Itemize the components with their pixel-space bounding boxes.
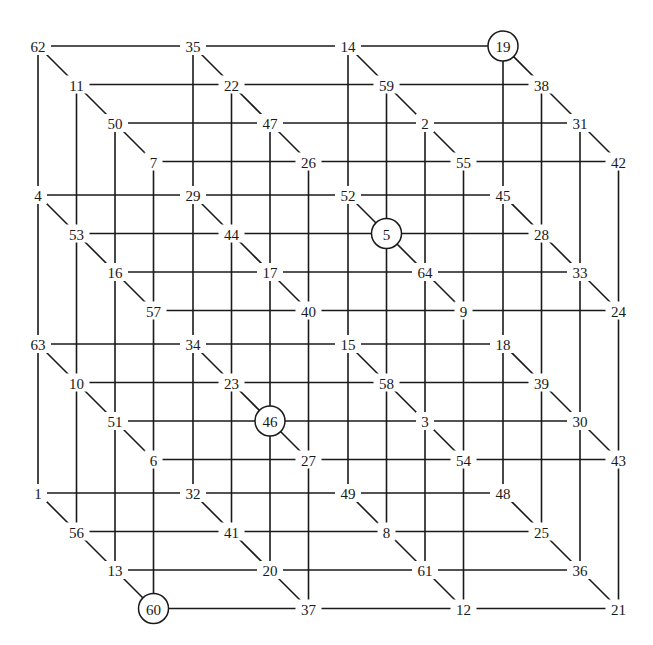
cube-node: 31 bbox=[567, 114, 593, 132]
cube-node: 1 bbox=[29, 484, 47, 502]
node-value: 10 bbox=[69, 376, 84, 392]
circled-cube-node: 5 bbox=[372, 219, 402, 249]
cube-node: 62 bbox=[25, 37, 51, 55]
cube-node: 32 bbox=[180, 484, 206, 502]
node-value: 51 bbox=[108, 414, 123, 430]
node-value: 23 bbox=[224, 376, 239, 392]
node-value: 54 bbox=[456, 453, 472, 469]
cube-node: 44 bbox=[219, 225, 245, 243]
node-value: 63 bbox=[31, 337, 46, 353]
cube-node: 20 bbox=[257, 561, 283, 579]
node-value: 39 bbox=[534, 376, 549, 392]
cube-node: 11 bbox=[64, 76, 90, 94]
magic-cube-diagram: 6235141911225938504723172655424295245534… bbox=[0, 0, 653, 645]
cube-node: 24 bbox=[606, 302, 632, 320]
node-value: 22 bbox=[224, 78, 239, 94]
circled-cube-node: 46 bbox=[255, 406, 285, 436]
cube-node: 55 bbox=[451, 153, 477, 171]
node-value: 37 bbox=[301, 602, 317, 618]
cube-node: 47 bbox=[257, 114, 283, 132]
cube-node: 4 bbox=[29, 186, 47, 204]
node-value: 53 bbox=[69, 227, 84, 243]
circled-cube-node: 19 bbox=[488, 31, 518, 61]
node-value: 8 bbox=[383, 525, 391, 541]
cube-node: 45 bbox=[490, 186, 516, 204]
node-value: 4 bbox=[34, 188, 42, 204]
cube-node: 10 bbox=[64, 374, 90, 392]
node-value: 28 bbox=[534, 227, 549, 243]
lattice-nodes: 6235141911225938504723172655424295245534… bbox=[25, 31, 632, 624]
node-value: 38 bbox=[534, 78, 549, 94]
node-value: 58 bbox=[379, 376, 394, 392]
cube-node: 7 bbox=[145, 153, 163, 171]
node-value: 31 bbox=[573, 116, 588, 132]
cube-node: 42 bbox=[606, 153, 632, 171]
node-value: 20 bbox=[263, 563, 278, 579]
node-value: 6 bbox=[150, 453, 158, 469]
cube-node: 30 bbox=[567, 412, 593, 430]
cube-node: 63 bbox=[25, 335, 51, 353]
cube-node: 35 bbox=[180, 37, 206, 55]
cube-node: 18 bbox=[490, 335, 516, 353]
node-value: 50 bbox=[108, 116, 123, 132]
cube-node: 22 bbox=[219, 76, 245, 94]
cube-node: 38 bbox=[529, 76, 555, 94]
cube-node: 15 bbox=[335, 335, 361, 353]
cube-node: 40 bbox=[296, 302, 322, 320]
cube-lattice: 6235141911225938504723172655424295245534… bbox=[0, 0, 653, 645]
node-value: 40 bbox=[301, 304, 316, 320]
node-value: 42 bbox=[611, 155, 626, 171]
node-value: 64 bbox=[418, 265, 434, 281]
node-value: 44 bbox=[224, 227, 240, 243]
node-value: 57 bbox=[146, 304, 162, 320]
node-value: 25 bbox=[534, 525, 549, 541]
node-value: 14 bbox=[341, 39, 357, 55]
node-value: 41 bbox=[224, 525, 239, 541]
cube-node: 50 bbox=[102, 114, 128, 132]
cube-node: 37 bbox=[296, 600, 322, 618]
cube-node: 23 bbox=[219, 374, 245, 392]
node-value: 52 bbox=[341, 188, 356, 204]
node-value: 17 bbox=[263, 265, 279, 281]
node-value: 59 bbox=[379, 78, 394, 94]
cube-node: 61 bbox=[412, 561, 438, 579]
node-value: 13 bbox=[108, 563, 123, 579]
cube-node: 29 bbox=[180, 186, 206, 204]
node-value: 33 bbox=[573, 265, 588, 281]
node-value: 45 bbox=[496, 188, 511, 204]
node-value: 35 bbox=[186, 39, 201, 55]
cube-node: 14 bbox=[335, 37, 361, 55]
cube-node: 12 bbox=[451, 600, 477, 618]
node-value: 27 bbox=[301, 453, 317, 469]
cube-node: 2 bbox=[416, 114, 434, 132]
node-value: 1 bbox=[34, 486, 42, 502]
cube-node: 13 bbox=[102, 561, 128, 579]
cube-node: 48 bbox=[490, 484, 516, 502]
cube-node: 21 bbox=[606, 600, 632, 618]
cube-node: 6 bbox=[145, 451, 163, 469]
cube-node: 53 bbox=[64, 225, 90, 243]
node-value: 26 bbox=[301, 155, 317, 171]
node-value: 9 bbox=[460, 304, 468, 320]
node-value: 16 bbox=[108, 265, 124, 281]
node-value: 18 bbox=[496, 337, 511, 353]
circled-cube-node: 60 bbox=[139, 594, 169, 624]
cube-node: 56 bbox=[64, 523, 90, 541]
cube-node: 57 bbox=[141, 302, 167, 320]
node-value: 12 bbox=[456, 602, 471, 618]
cube-node: 43 bbox=[606, 451, 632, 469]
node-value: 15 bbox=[341, 337, 356, 353]
cube-node: 16 bbox=[102, 263, 128, 281]
cube-node: 39 bbox=[529, 374, 555, 392]
node-value: 34 bbox=[186, 337, 202, 353]
node-value: 5 bbox=[383, 227, 391, 243]
cube-node: 26 bbox=[296, 153, 322, 171]
cube-node: 58 bbox=[374, 374, 400, 392]
cube-node: 34 bbox=[180, 335, 206, 353]
node-value: 43 bbox=[611, 453, 626, 469]
cube-node: 52 bbox=[335, 186, 361, 204]
node-value: 29 bbox=[186, 188, 201, 204]
cube-node: 49 bbox=[335, 484, 361, 502]
node-value: 7 bbox=[150, 155, 158, 171]
cube-node: 27 bbox=[296, 451, 322, 469]
